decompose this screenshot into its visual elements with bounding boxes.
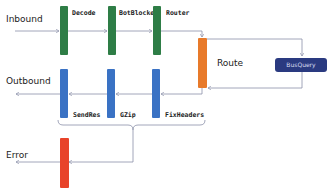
decode-stage bbox=[60, 6, 68, 55]
botblocker-stage bbox=[108, 6, 116, 55]
outbound-label: Outbound bbox=[6, 76, 51, 86]
gzip-stage bbox=[107, 69, 115, 118]
inbound-label: Inbound bbox=[6, 14, 43, 24]
fixheaders-label: FixHeaders bbox=[165, 111, 204, 119]
sendres-label: SendRes bbox=[73, 111, 100, 119]
fixheaders-stage bbox=[152, 69, 160, 118]
connector-lines bbox=[0, 0, 333, 195]
sendres-stage bbox=[60, 69, 68, 118]
error-stage bbox=[60, 138, 69, 188]
decode-label: Decode bbox=[72, 9, 95, 17]
busquery-node: BusQuery bbox=[275, 58, 327, 72]
router-stage bbox=[153, 6, 161, 55]
error-label: Error bbox=[6, 150, 28, 160]
route-stage bbox=[198, 38, 207, 88]
router-label: Router bbox=[166, 9, 189, 17]
route-label: Route bbox=[217, 58, 243, 68]
gzip-label: GZip bbox=[120, 111, 136, 119]
